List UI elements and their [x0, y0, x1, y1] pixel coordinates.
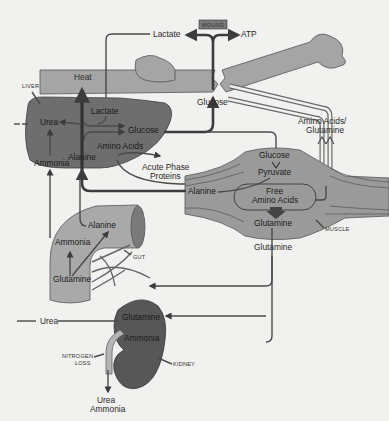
muscle-glucose: Glucose	[259, 150, 290, 160]
muscle-pyruvate: Pyruvate	[258, 167, 291, 177]
label-glutamine-top: Glutamine	[306, 125, 345, 135]
kidney-urea-in: Urea	[40, 316, 58, 326]
kidney-ammonia: Ammonia	[124, 333, 160, 343]
liver-urea: Urea	[40, 117, 58, 127]
muscle-caption: MUSCLE	[325, 226, 350, 232]
gut-alanine: Alanine	[88, 220, 116, 230]
muscle-free-amino-acids: Amino Acids	[252, 195, 298, 205]
liver-caption: LIVER	[22, 83, 39, 89]
nitrogen-loss-line1: NITROGEN	[62, 353, 93, 359]
liver-lactate: Lactate	[91, 106, 119, 116]
output-ammonia: Ammonia	[90, 404, 126, 414]
gut-caption: GUT	[133, 254, 146, 260]
gut-caption-pointer	[124, 250, 131, 255]
nitrogen-loss-line2: LOSS	[75, 360, 91, 366]
wound-badge: WOUND	[199, 20, 227, 29]
muscle-glutamine: Glutamine	[254, 218, 293, 228]
kidney-glutamine: Glutamine	[122, 312, 161, 322]
muscle-alanine: Alanine	[188, 186, 216, 196]
label-atp: ATP	[241, 29, 257, 39]
gut-ammonia: Ammonia	[55, 237, 91, 247]
label-glucose-top: Glucose	[197, 97, 228, 107]
liver-ammonia: Ammonia	[34, 158, 70, 168]
nitrogen-pointer	[94, 354, 104, 357]
label-heat: Heat	[74, 72, 92, 82]
kidney-caption: KIDNEY	[173, 361, 195, 367]
wound-label: WOUND	[202, 22, 225, 28]
bone-shape	[40, 34, 346, 94]
metabolic-diagram: WOUND Lactate ATP LIVER Heat Lactate Ure…	[0, 0, 389, 421]
label-proteins: Proteins	[150, 171, 181, 181]
liver-amino-acids: Amino Acids	[97, 141, 143, 151]
label-glutamine-transport: Glutamine	[254, 242, 293, 252]
label-lactate-top: Lactate	[153, 29, 181, 39]
arrow-to-atp	[213, 35, 238, 42]
liver-alanine: Alanine	[68, 152, 96, 162]
liver-glucose: Glucose	[128, 125, 159, 135]
